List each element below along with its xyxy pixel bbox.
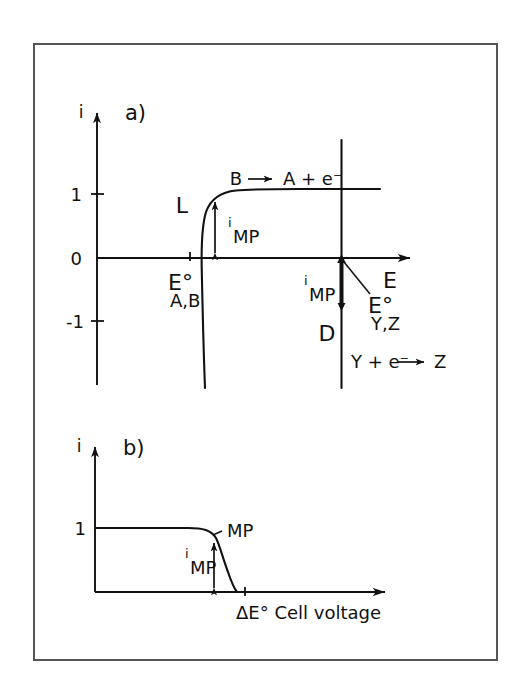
panel-b: 1 i b) MP i MP ΔE° Cell voltage: [75, 436, 385, 623]
panel-a-ytick-label-1: 1: [71, 184, 82, 205]
panel-a-ytick-label-minus-1: -1: [66, 311, 84, 332]
panel-a-electrode-dark-label: D: [319, 321, 336, 346]
panel-b-imp-symbol: i: [185, 546, 189, 561]
panel-a-e-standard-ab-subscript: A,B: [170, 290, 200, 311]
panel-a-y-axis-label: i: [79, 102, 84, 122]
panel-a-imp-right-arrowhead-lower: [338, 303, 346, 311]
panel-a-imp-right-subscript: MP: [309, 284, 336, 305]
panel-a-cathodic-product: Z: [434, 351, 446, 372]
panel-a-anodic-products: A + e⁻: [283, 168, 342, 189]
panel-a-imp-left-label: i MP: [228, 215, 260, 247]
panel-a-imp-left-symbol: i: [228, 215, 232, 230]
panel-a-imp-left-subscript: MP: [233, 226, 260, 247]
panel-b-ytick-label-1: 1: [75, 518, 86, 539]
figure-root: 1 0 -1 i E a) A + e- reaction annotation…: [0, 0, 526, 697]
panel-a: 1 0 -1 i E a) A + e- reaction annotation…: [66, 101, 446, 388]
panel-a-e-standard-yz: E° Y,Z: [368, 293, 400, 334]
panel-b-imp-subscript: MP: [190, 557, 217, 578]
panel-b-mp-leader: [213, 531, 222, 535]
panel-a-ytick-label-0: 0: [71, 248, 82, 269]
panel-a-anodic-reactant: B: [230, 168, 242, 189]
panel-a-imp-right-symbol: i: [304, 273, 308, 288]
panel-b-y-axis-label: i: [77, 436, 82, 456]
panel-b-max-power-point-label: MP: [227, 520, 254, 541]
panel-b-letter: b): [123, 436, 145, 460]
figure-canvas: 1 0 -1 i E a) A + e- reaction annotation…: [0, 0, 526, 697]
panel-a-imp-right-label: i MP: [304, 273, 336, 305]
panel-a-x-axis-label: E: [383, 268, 397, 293]
figure-border: [34, 44, 497, 660]
panel-a-e-standard-yz-leader: [344, 262, 370, 294]
panel-a-electrode-light-label: L: [176, 193, 189, 218]
panel-a-letter: a): [125, 101, 146, 125]
panel-a-e-standard-ab: E° A,B: [168, 270, 200, 311]
panel-b-imp-label: i MP: [185, 546, 217, 578]
panel-a-e-standard-yz-subscript: Y,Z: [370, 313, 400, 334]
panel-b-x-axis-label: ΔE° Cell voltage: [236, 602, 381, 623]
